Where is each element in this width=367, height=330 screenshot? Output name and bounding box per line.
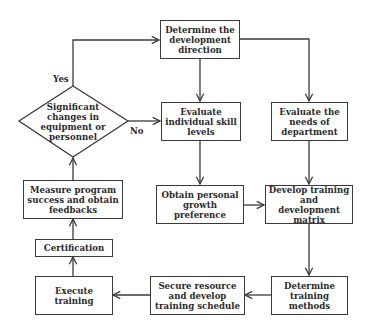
- node-secure-resource: Secure resource and develop training sch…: [150, 276, 245, 315]
- node-label: Determine the development direction: [163, 25, 237, 55]
- node-determine-methods: Determine training methods: [271, 276, 348, 315]
- node-evaluate-skills: Evaluate individual skill levels: [161, 102, 241, 141]
- node-label: Evaluate individual skill levels: [164, 107, 238, 137]
- edge-yes: [73, 40, 159, 86]
- node-certification: Certification: [35, 239, 113, 257]
- node-obtain-preference: Obtain personal growth preference: [156, 185, 244, 224]
- edge-direction-needs: [239, 39, 309, 101]
- node-label: Determine training methods: [274, 281, 345, 311]
- node-evaluate-needs: Evaluate the needs of department: [271, 102, 348, 141]
- node-label: Certification: [44, 243, 104, 253]
- node-develop-matrix: Develop training and development matrix: [265, 185, 353, 224]
- node-execute-training: Execute training: [35, 276, 113, 315]
- node-label: Develop training and development matrix: [268, 185, 350, 225]
- node-measure-success: Measure program success and obtain feedb…: [23, 180, 123, 219]
- node-label: Secure resource and develop training sch…: [153, 281, 242, 311]
- node-label: Obtain personal growth preference: [159, 190, 241, 220]
- label-yes: Yes: [53, 74, 69, 84]
- node-label: Execute training: [50, 286, 98, 306]
- node-label: Evaluate the needs of department: [274, 107, 345, 137]
- label-no: No: [130, 126, 144, 136]
- node-label: Measure program success and obtain feedb…: [26, 185, 120, 215]
- node-decision: Significant changes in equipment or pers…: [40, 101, 106, 143]
- node-determine-direction: Determine the development direction: [160, 20, 240, 59]
- node-label: Significant changes in equipment or pers…: [40, 102, 106, 142]
